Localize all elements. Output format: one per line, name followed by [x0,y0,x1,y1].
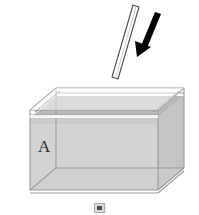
figure-root: A [0,0,199,215]
liquid-bottom-inner [30,168,184,190]
rod-highlight [116,7,137,78]
tank-airgap-front [30,115,158,118]
rod [112,5,139,79]
liquid-label-A: A [38,137,51,156]
insertion-arrow [135,12,161,57]
page-marker-icon [94,203,105,213]
tank-rim-top-band [30,88,184,110]
tank-and-rod-diagram: A [0,0,199,215]
liquid-surface-shadow [30,118,158,124]
arrow-shaft [141,12,161,48]
